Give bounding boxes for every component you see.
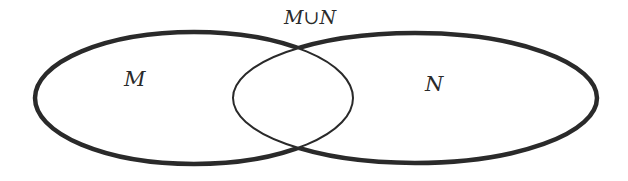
union-label: M∪N — [283, 6, 337, 28]
union-left-set: M — [283, 6, 304, 28]
union-right-set: N — [318, 6, 337, 28]
set-m-label: M — [123, 67, 146, 91]
set-n-ellipse — [233, 33, 597, 163]
set-n-label: N — [424, 72, 444, 96]
venn-diagram: M N M∪N — [0, 0, 628, 181]
union-operator: ∪ — [303, 6, 319, 28]
set-m-ellipse — [35, 32, 353, 164]
